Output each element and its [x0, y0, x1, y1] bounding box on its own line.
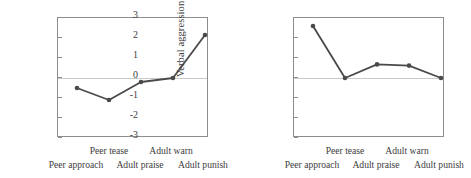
data-point-marker	[375, 62, 380, 67]
data-point-marker	[439, 76, 444, 81]
left-x-label-adult-warn: Adult warn	[149, 145, 192, 156]
left-x-label-peer-approach: Peer approach	[49, 159, 104, 170]
data-point-marker	[343, 76, 348, 81]
data-point-marker	[139, 80, 144, 85]
right-y-ticklabel-neg3: -3	[130, 130, 138, 140]
right-y-ticklabel-neg1: -1	[130, 90, 138, 100]
right-y-ticklabel-0: 0	[133, 70, 138, 80]
right-x-label-adult-warn: Adult warn	[385, 145, 428, 156]
right-y-ticklabel-2: 2	[133, 30, 138, 40]
left-x-label-adult-praise: Adult praise	[116, 159, 163, 170]
two-panel-line-chart-figure: Verbal aggression 3 2 1 0 -1	[0, 0, 471, 178]
right-x-label-adult-praise: Adult praise	[352, 159, 399, 170]
data-point-marker	[75, 86, 80, 91]
right-y-ticklabel-3: 3	[133, 10, 138, 20]
right-panel-y-axis-label: Verbal aggression	[175, 0, 193, 104]
data-point-marker	[407, 63, 412, 68]
right-x-label-peer-tease: Peer tease	[326, 145, 365, 156]
right-y-ticklabel-1: 1	[133, 50, 138, 60]
right-panel-data-series	[294, 18, 445, 138]
data-point-marker	[203, 33, 208, 38]
right-panel: Verbal aggression 3 2 1 0 -1	[235, 0, 471, 178]
left-x-label-adult-punish: Adult punish	[178, 159, 228, 170]
data-point-marker	[107, 98, 112, 103]
left-x-label-peer-tease: Peer tease	[90, 145, 129, 156]
right-y-ticklabel-neg2: -2	[130, 110, 138, 120]
data-line	[313, 26, 441, 78]
right-x-label-adult-punish: Adult punish	[414, 159, 464, 170]
right-x-label-peer-approach: Peer approach	[285, 159, 340, 170]
right-panel-plot-area: 3 2 1 0 -1 -2	[293, 17, 444, 137]
data-point-marker	[311, 24, 316, 29]
left-panel: Verbal aggression 3 2 1 0 -1	[0, 0, 236, 178]
